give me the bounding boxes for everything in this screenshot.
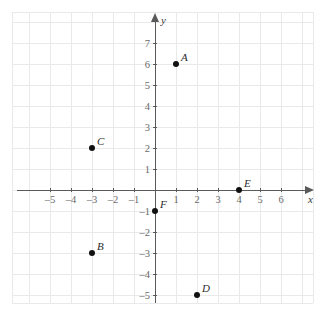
y-axis-tick-label: –5	[140, 290, 151, 301]
x-axis-tick-label: –5	[45, 194, 56, 205]
y-axis-tick	[153, 232, 157, 233]
y-axis-tick	[153, 169, 157, 170]
x-axis-tick-label: 3	[215, 194, 220, 205]
y-axis-tick-label: –2	[140, 227, 151, 238]
grid-line-horizontal	[12, 253, 313, 254]
x-axis-tick	[218, 188, 219, 192]
x-axis-tick-label: 5	[257, 194, 262, 205]
plotted-point-a	[173, 61, 179, 67]
grid-line-vertical	[92, 12, 93, 303]
x-axis-tick	[176, 188, 177, 192]
y-axis-tick	[153, 43, 157, 44]
grid-line-horizontal	[12, 106, 313, 107]
point-label-e: E	[244, 177, 251, 189]
x-axis-tick	[281, 188, 282, 192]
x-axis-tick-label: –1	[129, 194, 140, 205]
x-axis-tick-label: 6	[278, 194, 283, 205]
grid-line-vertical	[134, 12, 135, 303]
plotted-point-c	[89, 145, 95, 151]
x-axis-label: x	[308, 193, 313, 205]
y-axis-tick-label: 5	[145, 80, 150, 91]
grid-line-horizontal	[12, 169, 313, 170]
plotted-point-e	[236, 187, 242, 193]
grid-line-horizontal	[12, 232, 313, 233]
y-axis-tick-label: 1	[145, 164, 150, 175]
point-label-a: A	[181, 51, 188, 63]
y-axis-tick-label: 7	[145, 38, 150, 49]
grid-line-horizontal	[12, 43, 313, 44]
y-axis-tick	[153, 64, 157, 65]
grid-border-horizontal	[12, 12, 313, 13]
y-axis-tick	[153, 127, 157, 128]
plotted-point-d	[194, 292, 200, 298]
plotted-point-f	[152, 208, 158, 214]
y-axis-tick	[153, 274, 157, 275]
y-axis-label: y	[161, 14, 166, 26]
point-label-d: D	[202, 282, 210, 294]
grid-line-vertical	[239, 12, 240, 303]
x-axis-tick	[134, 188, 135, 192]
y-axis-tick	[153, 253, 157, 254]
grid-line-horizontal	[12, 127, 313, 128]
x-axis-tick-label: 4	[236, 194, 241, 205]
x-axis-tick	[197, 188, 198, 192]
y-axis-tick-label: –3	[140, 248, 151, 259]
x-axis-tick-label: –3	[87, 194, 98, 205]
grid-line-horizontal	[12, 64, 313, 65]
grid-line-horizontal	[12, 274, 313, 275]
grid-line-horizontal	[12, 85, 313, 86]
x-axis-tick	[71, 188, 72, 192]
grid-line-vertical	[29, 12, 30, 303]
point-label-f: F	[160, 198, 167, 210]
x-axis-tick-label: –2	[108, 194, 119, 205]
grid-line-vertical	[176, 12, 177, 303]
grid-line-horizontal	[12, 211, 313, 212]
y-axis-tick	[153, 295, 157, 296]
x-axis-tick-label: 2	[194, 194, 199, 205]
point-label-c: C	[97, 135, 104, 147]
grid-border-horizontal	[12, 303, 313, 304]
y-axis-tick-label: 3	[145, 122, 150, 133]
x-axis-tick	[50, 188, 51, 192]
grid-line-vertical	[197, 12, 198, 303]
x-axis-tick	[260, 188, 261, 192]
grid-line-vertical	[218, 12, 219, 303]
y-axis-tick	[153, 148, 157, 149]
grid-line-vertical	[260, 12, 261, 303]
grid-line-vertical	[50, 12, 51, 303]
coordinate-plane: xy –5–4–3–2–11234567654321–1–2–3–4–5 ABC…	[0, 0, 327, 316]
plotted-point-b	[89, 250, 95, 256]
grid-line-vertical	[281, 12, 282, 303]
point-label-b: B	[97, 240, 104, 252]
y-axis-tick-label: 4	[145, 101, 150, 112]
grid-line-vertical	[113, 12, 114, 303]
x-axis-line	[17, 190, 310, 191]
y-axis-tick	[153, 85, 157, 86]
y-axis-tick-label: 2	[145, 143, 150, 154]
y-axis-tick-label: –4	[140, 269, 151, 280]
grid-line-vertical	[302, 12, 303, 303]
y-axis-tick	[153, 106, 157, 107]
grid-line-horizontal	[12, 295, 313, 296]
x-axis-tick-label: –4	[66, 194, 77, 205]
x-axis-tick-label: 1	[173, 194, 178, 205]
y-axis-tick-label: 6	[145, 59, 150, 70]
grid-border-vertical	[12, 12, 13, 303]
grid-border-vertical	[313, 12, 314, 303]
grid-line-vertical	[71, 12, 72, 303]
y-axis-tick-label: –1	[140, 206, 151, 217]
x-axis-tick	[92, 188, 93, 192]
x-axis-tick	[113, 188, 114, 192]
y-axis-arrow-icon	[151, 13, 159, 22]
grid-line-horizontal	[12, 148, 313, 149]
